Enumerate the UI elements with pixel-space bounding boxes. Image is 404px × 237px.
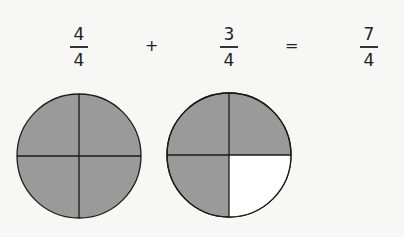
circle-four-fourths (17, 94, 141, 218)
circle-three-fourths (167, 93, 291, 217)
fraction-circles (0, 0, 404, 237)
